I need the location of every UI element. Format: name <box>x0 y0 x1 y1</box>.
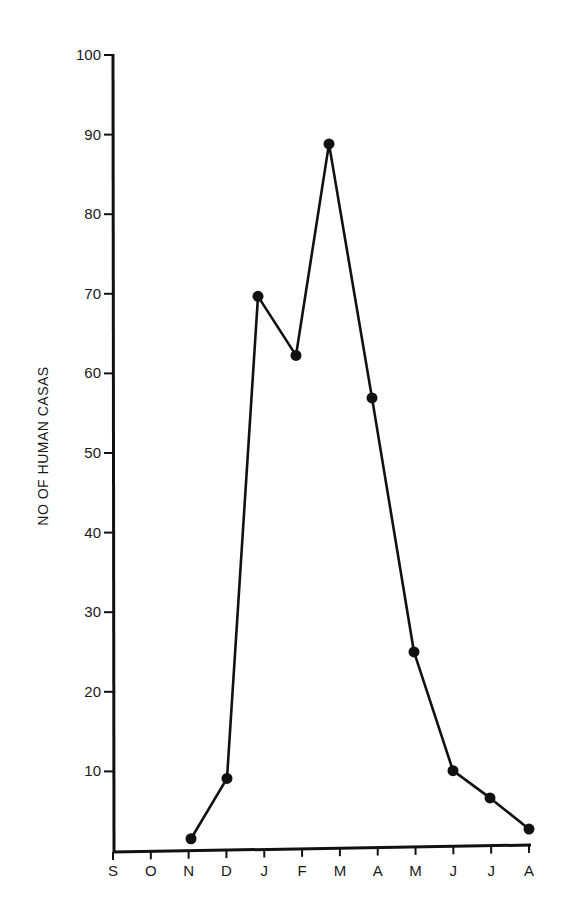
x-tick-label: F <box>298 862 307 879</box>
data-point-marker <box>222 773 233 784</box>
data-point-marker <box>186 833 197 844</box>
y-tick-label: 10 <box>84 762 101 779</box>
data-point-marker <box>448 765 459 776</box>
y-tick-label: 50 <box>84 444 101 461</box>
x-tick-label: J <box>487 862 495 879</box>
data-point-marker <box>409 646 420 657</box>
y-tick-label: 20 <box>84 683 101 700</box>
y-tick-label: 70 <box>84 285 101 302</box>
x-tick-label: J <box>450 862 458 879</box>
data-point-marker <box>367 392 378 403</box>
x-tick-label: M <box>409 862 422 879</box>
x-axis: SONDJFMAMJJA <box>108 845 534 879</box>
y-tick-label: 40 <box>84 524 101 541</box>
data-point-marker <box>291 350 302 361</box>
data-point-marker <box>324 138 335 149</box>
x-tick-label: A <box>373 862 383 879</box>
y-tick-label: 30 <box>84 603 101 620</box>
y-tick-label: 60 <box>84 364 101 381</box>
data-point-marker <box>485 792 496 803</box>
y-axis: 102030405060708090100 <box>76 46 114 852</box>
x-tick-label: J <box>261 862 269 879</box>
x-tick-label: M <box>334 862 347 879</box>
line-chart: 102030405060708090100 SONDJFMAMJJA NO OF… <box>0 0 564 919</box>
data-point-marker <box>524 824 535 835</box>
x-tick-label: A <box>524 862 534 879</box>
y-tick-label: 80 <box>84 205 101 222</box>
x-tick-label: D <box>221 862 232 879</box>
series-line <box>191 144 529 839</box>
y-tick-label: 90 <box>84 126 101 143</box>
data-point-marker <box>253 291 264 302</box>
y-tick-label: 100 <box>76 46 101 63</box>
x-tick-label: S <box>108 862 118 879</box>
data-series <box>186 138 535 844</box>
x-tick-label: N <box>183 862 194 879</box>
y-axis-title: NO OF HUMAN CASAS <box>35 366 51 525</box>
x-tick-label: O <box>145 862 157 879</box>
